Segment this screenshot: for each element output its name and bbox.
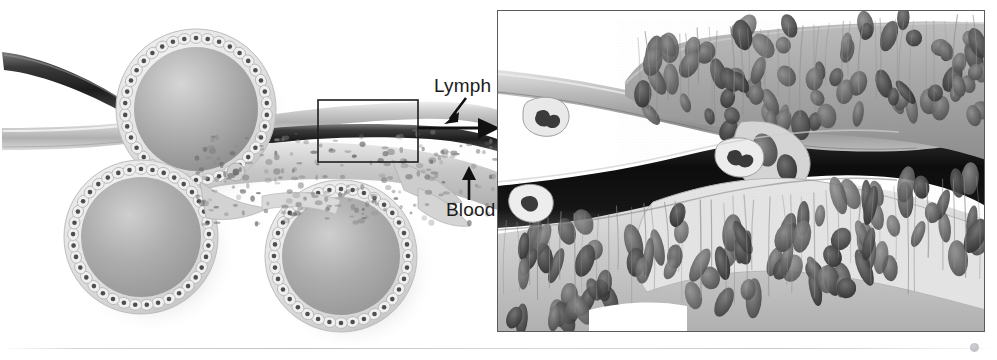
scan-artifact-line bbox=[0, 348, 997, 349]
magnified-inset-panel bbox=[497, 10, 985, 332]
leukocyte-1 bbox=[523, 97, 569, 136]
blood-label: Blood bbox=[446, 200, 496, 219]
magnified-illustration bbox=[497, 10, 985, 332]
alveolus-left bbox=[64, 160, 218, 314]
overview-illustration bbox=[0, 0, 500, 345]
scan-artifact-dot bbox=[970, 343, 979, 352]
figure-root: Lymph Blood bbox=[0, 0, 997, 360]
lymph-label: Lymph bbox=[434, 76, 491, 95]
overview-diagram-panel: Lymph Blood bbox=[0, 0, 500, 345]
